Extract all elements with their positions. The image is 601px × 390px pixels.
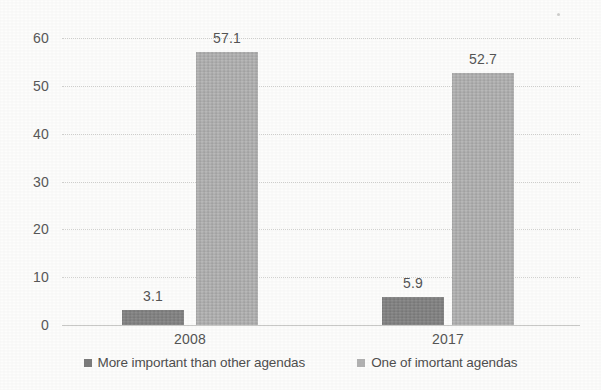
gridline-60 [62, 38, 580, 39]
bar-2017-more-important [382, 297, 444, 325]
chart-legend: More important than other agendas One of… [0, 355, 601, 370]
axis-baseline-0 [62, 325, 580, 326]
bar-2008-more-important [122, 310, 184, 325]
y-axis-tick-0: 0 [5, 317, 49, 333]
value-label-2008-one-of-important: 57.1 [192, 30, 262, 46]
bar-2017-one-of-important [452, 73, 514, 325]
y-axis-tick-10: 10 [5, 269, 49, 285]
legend-entry-more-important[interactable]: More important than other agendas [84, 355, 306, 370]
scan-artifact-speck [557, 13, 560, 16]
y-axis-tick-60: 60 [5, 30, 49, 46]
value-label-2008-more-important: 3.1 [122, 288, 184, 304]
legend-swatch-icon-dark [84, 359, 92, 367]
bar-2008-one-of-important [196, 52, 258, 325]
legend-label-more-important: More important than other agendas [98, 355, 306, 370]
y-axis-tick-30: 30 [5, 174, 49, 190]
plot-area: 3.1 57.1 5.9 52.7 [62, 38, 580, 325]
value-label-2017-one-of-important: 52.7 [448, 51, 518, 67]
bar-chart-figure: 60 50 40 30 20 10 0 3.1 57.1 5.9 52.7 20… [0, 0, 601, 390]
legend-swatch-icon-light [357, 359, 365, 367]
value-label-2017-more-important: 5.9 [382, 275, 444, 291]
y-axis-tick-50: 50 [5, 78, 49, 94]
y-axis-tick-40: 40 [5, 126, 49, 142]
x-axis-label-2008: 2008 [122, 331, 258, 347]
x-axis-label-2017: 2017 [382, 331, 514, 347]
legend-entry-one-of-important[interactable]: One of imortant agendas [357, 355, 517, 370]
legend-label-one-of-important: One of imortant agendas [371, 355, 517, 370]
y-axis-tick-20: 20 [5, 221, 49, 237]
